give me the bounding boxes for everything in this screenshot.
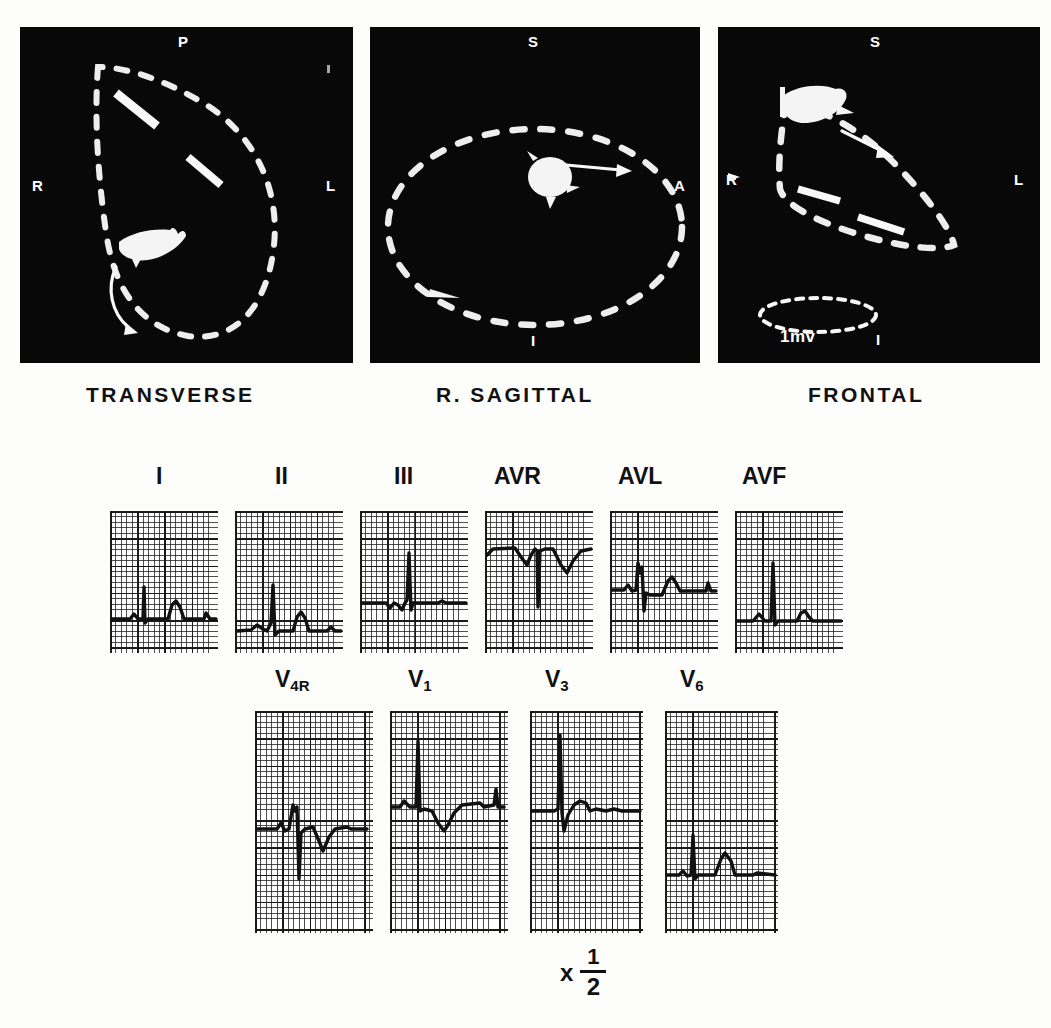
lead-label-I: I (156, 463, 162, 490)
ecg-strip-AVR (485, 511, 593, 653)
ecg-strip-V4R (255, 711, 373, 933)
vcg-axis-label-top: S (528, 33, 539, 50)
ecg-waveform-AVR (485, 511, 593, 653)
vcg-axis-label-left: R (726, 171, 737, 188)
caption-frontal: FRONTAL (808, 383, 924, 407)
lead-label-subscript: 3 (560, 677, 568, 694)
lead-label-text: V (275, 666, 290, 692)
lead-label-text: III (394, 463, 413, 489)
lead-label-V3: V3 (545, 666, 569, 694)
calibration-ellipse (760, 298, 876, 332)
vcg-axis-label-right: L (326, 177, 336, 194)
lead-label-text: II (275, 463, 288, 489)
ecg-strip-AVF (735, 511, 843, 653)
qrs-blob (527, 151, 580, 209)
ecg-strip-I (110, 511, 218, 653)
lead-label-subscript: 4R (290, 677, 309, 694)
frontal-loop-graphic (718, 27, 1040, 363)
rotation-arrowhead (616, 164, 632, 177)
lead-label-text: AVL (618, 463, 662, 489)
ecg-waveform-V1 (390, 711, 508, 933)
ecg-waveform-V6 (665, 711, 778, 933)
lead-label-text: V (680, 666, 695, 692)
lead-label-subscript: 6 (695, 677, 703, 694)
ecg-strip-II (235, 511, 343, 653)
calibration-label: 1mv (780, 327, 816, 347)
vcg-panel-transverse: P R L (20, 27, 353, 363)
ecg-waveform-II (235, 511, 343, 653)
ecg-strip-AVL (610, 511, 718, 653)
lead-label-text: V (545, 666, 560, 692)
scale-note-prefix: x (560, 959, 573, 987)
vcg-axis-label-bottom: I (876, 331, 881, 348)
ecg-strip-V1 (390, 711, 508, 933)
caption-transverse: TRANSVERSE (86, 383, 255, 407)
caption-sagittal: R. SAGITTAL (436, 383, 594, 407)
ecg-strip-III (360, 511, 468, 653)
vcg-axis-label-left: R (32, 177, 43, 194)
vcg-panel-sagittal: S A I (370, 27, 700, 363)
vcg-axis-label-bottom: I (531, 332, 536, 349)
vcg-axis-label-top: P (178, 33, 189, 50)
lead-label-AVL: AVL (618, 463, 662, 490)
vcg-axis-label-right: L (1014, 171, 1024, 188)
vcg-axis-label-right: A (674, 177, 685, 194)
scale-note-fraction: 1 2 (580, 946, 606, 999)
vcg-panel-row: P R L S A I (0, 0, 1051, 370)
lead-label-text: AVR (494, 463, 541, 489)
qrs-blob (780, 86, 854, 123)
ecg-waveform-III (360, 511, 468, 653)
lead-label-text: V (408, 666, 423, 692)
lead-label-subscript: 1 (423, 677, 431, 694)
ecg-waveform-V3 (530, 711, 643, 933)
lead-label-V1: V1 (408, 666, 432, 694)
vcg-axis-label-top: S (870, 33, 881, 50)
ecg-waveform-AVL (610, 511, 718, 653)
lead-label-text: I (156, 463, 162, 489)
rotation-arrowhead (876, 145, 894, 158)
ecg-strip-V6 (665, 711, 778, 933)
ecg-waveform-AVF (735, 511, 843, 653)
lead-label-V4R: V4R (275, 666, 310, 694)
ecg-waveform-I (110, 511, 218, 653)
lead-label-AVF: AVF (742, 463, 786, 490)
ecg-strip-V3 (530, 711, 643, 933)
transverse-loop-graphic (20, 27, 353, 363)
ecg-waveform-V4R (255, 711, 373, 933)
lead-label-AVR: AVR (494, 463, 541, 490)
fraction-denominator: 2 (587, 974, 600, 999)
qrs-blob (119, 228, 186, 268)
scale-note: x 1 2 (560, 946, 606, 999)
vcg-panel-frontal: S R L I 1mv (718, 27, 1040, 363)
sagittal-loop-graphic (370, 27, 700, 363)
lead-label-text: AVF (742, 463, 786, 489)
lead-label-III: III (394, 463, 413, 490)
rotation-arrowhead (124, 323, 138, 335)
fraction-numerator: 1 (587, 946, 599, 969)
lead-label-V6: V6 (680, 666, 704, 694)
lead-label-II: II (275, 463, 288, 490)
